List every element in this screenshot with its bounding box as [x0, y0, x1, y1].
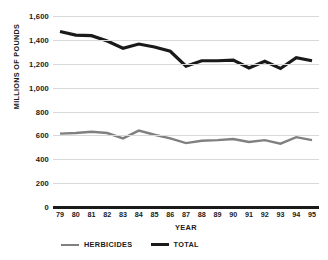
- x-tick-label: 81: [87, 210, 95, 219]
- legend-label: HERBICIDES: [84, 240, 133, 249]
- x-tick-label: 93: [276, 210, 284, 219]
- y-tick-label: 1,000: [29, 83, 49, 92]
- y-tick-label: 800: [36, 107, 49, 116]
- y-tick-label: 200: [36, 179, 49, 188]
- line-chart: MILLIONS OF POUNDS 02004006008001,0001,2…: [0, 0, 328, 260]
- legend-item: TOTAL: [151, 240, 199, 249]
- gridline: [53, 88, 319, 89]
- chart-legend: HERBICIDESTOTAL: [53, 240, 319, 249]
- y-tick-label: 1,600: [29, 12, 49, 21]
- x-tick-label: 92: [261, 210, 269, 219]
- x-tick-label: 90: [229, 210, 237, 219]
- y-tick-label: 400: [36, 155, 49, 164]
- x-tick-label: 86: [166, 210, 174, 219]
- gridline: [53, 159, 319, 160]
- x-tick-label: 88: [198, 210, 206, 219]
- x-tick-label: 83: [119, 210, 127, 219]
- gridline: [53, 183, 319, 184]
- legend-item: HERBICIDES: [61, 240, 133, 249]
- y-tick-label: 1,400: [29, 35, 49, 44]
- gridline: [53, 16, 319, 17]
- axis-baseline: [53, 206, 319, 209]
- x-tick-label: 82: [103, 210, 111, 219]
- y-tick-label: 1,200: [29, 59, 49, 68]
- gridline: [53, 64, 319, 65]
- x-tick-label: 84: [135, 210, 143, 219]
- x-tick-label: 80: [72, 210, 80, 219]
- x-tick-label: 87: [182, 210, 190, 219]
- y-tick-label: 0: [45, 203, 49, 212]
- y-tick-label: 600: [36, 131, 49, 140]
- gridline: [53, 40, 319, 41]
- gridline: [53, 135, 319, 136]
- x-tick-label: 89: [213, 210, 221, 219]
- legend-label: TOTAL: [174, 240, 199, 249]
- y-axis-title: MILLIONS OF POUNDS: [12, 7, 21, 127]
- x-tick-label: 94: [292, 210, 300, 219]
- series-line-herbicides: [60, 131, 312, 144]
- x-tick-label: 85: [150, 210, 158, 219]
- x-tick-label: 79: [56, 210, 64, 219]
- x-tick-label: 91: [245, 210, 253, 219]
- legend-swatch-icon: [61, 244, 79, 246]
- x-tick-label: 95: [308, 210, 316, 219]
- x-axis-title: YEAR: [53, 223, 319, 232]
- gridline: [53, 112, 319, 113]
- plot-area: 02004006008001,0001,2001,4001,600: [53, 16, 319, 207]
- legend-swatch-icon: [151, 243, 169, 246]
